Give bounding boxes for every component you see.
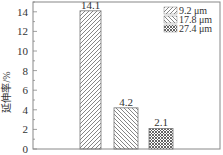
y-tick-label: 2 xyxy=(23,123,29,135)
legend-swatch-2 xyxy=(164,16,177,23)
legend-swatch-1 xyxy=(164,7,177,14)
bar-2 xyxy=(114,108,138,149)
legend-swatch-3 xyxy=(164,25,177,32)
y-tick-label: 14 xyxy=(17,6,29,18)
y-tick-label: 4 xyxy=(23,104,29,116)
y-axis-label: 延伸率/% xyxy=(0,71,12,112)
bar-3 xyxy=(149,128,173,149)
elongation-bar-chart: 02468101214 14.14.22.1 9.2 μm17.8 μm27.4… xyxy=(0,0,223,155)
bar-value-label: 14.1 xyxy=(81,0,100,11)
legend-label-3: 27.4 μm xyxy=(179,23,212,34)
bar-1 xyxy=(80,11,101,149)
bar-value-label: 2.1 xyxy=(154,116,168,128)
y-tick-label: 6 xyxy=(23,84,29,96)
y-tick-label: 8 xyxy=(23,65,29,77)
bar-value-label: 4.2 xyxy=(119,96,133,108)
y-tick-label: 0 xyxy=(23,143,29,155)
y-tick-label: 10 xyxy=(17,45,29,57)
y-tick-label: 12 xyxy=(17,25,28,37)
